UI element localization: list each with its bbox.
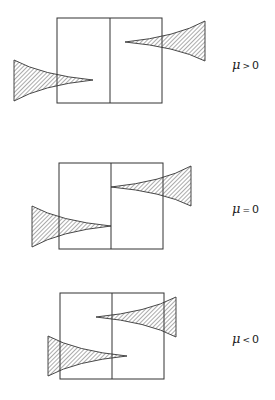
value: 0 bbox=[252, 59, 259, 72]
right-hatched-wedge bbox=[111, 166, 191, 206]
value: 0 bbox=[252, 333, 259, 346]
operator: = bbox=[242, 205, 250, 215]
operator: < bbox=[242, 335, 250, 345]
right-hatched-wedge bbox=[125, 21, 205, 61]
panel-2 bbox=[32, 163, 191, 249]
right-hatched-wedge bbox=[96, 297, 176, 337]
mu-symbol: μ bbox=[232, 201, 240, 216]
label-mu-equals-zero: μ=0 bbox=[232, 201, 259, 216]
left-hatched-wedge bbox=[48, 336, 127, 376]
mu-symbol: μ bbox=[232, 331, 240, 346]
operator: > bbox=[242, 61, 250, 71]
value: 0 bbox=[252, 203, 259, 216]
left-hatched-wedge bbox=[14, 60, 93, 101]
label-mu-less-than-zero: μ<0 bbox=[232, 331, 259, 346]
panel-1 bbox=[14, 18, 205, 103]
mu-symbol: μ bbox=[232, 57, 240, 72]
left-hatched-wedge bbox=[32, 206, 111, 247]
panel-3 bbox=[48, 293, 176, 379]
label-mu-greater-than-zero: μ>0 bbox=[232, 57, 259, 72]
